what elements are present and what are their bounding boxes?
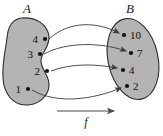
set-a-shape	[3, 18, 49, 105]
set-b-element-2-dot	[125, 84, 129, 88]
mapping-curve-2-to-4	[51, 65, 117, 71]
function-label: f	[84, 115, 89, 129]
set-a-element-2-dot	[45, 69, 49, 73]
set-b-element-7-dot	[129, 51, 133, 55]
set-b-element-2-label: 2	[133, 80, 139, 92]
set-b-label: B	[126, 1, 134, 16]
set-a-element-4-dot	[43, 37, 47, 41]
set-b-element-10-label: 10	[130, 29, 142, 41]
set-a-element-2-label: 2	[35, 65, 41, 77]
function-mapping-diagram: A B 4 3 2 1 10 7 4	[0, 0, 163, 136]
set-a-element-1-label: 1	[16, 83, 22, 95]
set-a-element-1-dot	[26, 87, 30, 91]
mapping-diagram-canvas: A B 4 3 2 1 10 7 4	[0, 0, 163, 136]
set-a-label: A	[22, 1, 31, 16]
set-b-element-4-dot	[121, 68, 125, 72]
set-b-element-7-label: 7	[137, 47, 143, 59]
set-a-element-3-dot	[38, 52, 42, 56]
set-a-element-3-label: 3	[28, 48, 34, 60]
set-a-element-4-label: 4	[33, 33, 39, 45]
set-b-shape	[100, 14, 163, 105]
set-b-element-10-dot	[122, 33, 126, 37]
set-b-element-4-label: 4	[129, 64, 135, 76]
